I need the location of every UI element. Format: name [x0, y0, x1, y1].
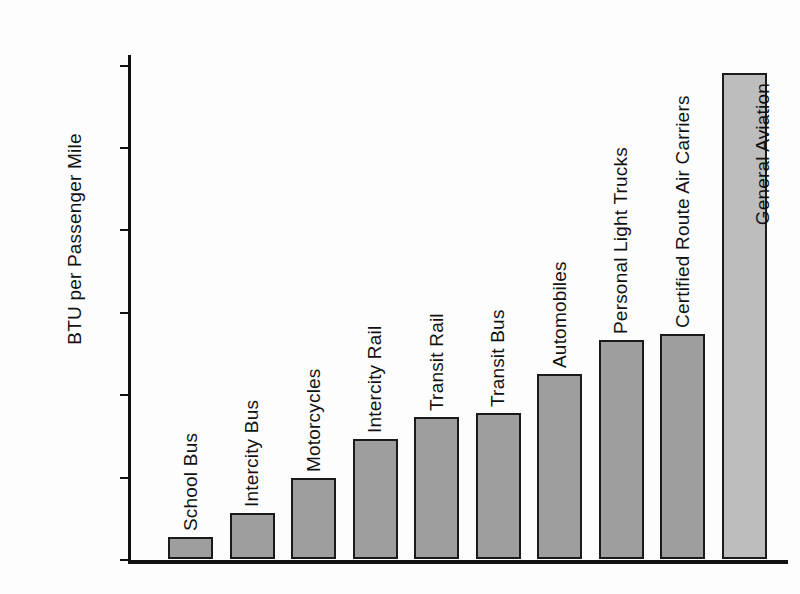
bar[interactable]: Intercity Bus [230, 513, 275, 559]
x-axis-line [128, 560, 788, 564]
bar[interactable]: Automobiles [537, 374, 582, 559]
y-axis-tick-mark [120, 147, 129, 149]
y-axis-tick-mark [120, 477, 129, 479]
y-axis-tick-mark [120, 312, 129, 314]
bar[interactable]: Personal Light Trucks [599, 340, 644, 559]
bar[interactable]: Transit Rail [414, 417, 459, 559]
bar-label: Certified Route Air Carriers [673, 95, 692, 328]
y-axis-line [128, 55, 131, 563]
y-axis-tick-mark [120, 394, 129, 396]
bar-label: Intercity Bus [242, 400, 261, 507]
bar-label: Transit Bus [488, 309, 507, 407]
y-axis-tick-mark [120, 229, 129, 231]
bar-label: School Bus [181, 433, 200, 531]
y-axis-tick-mark [120, 559, 129, 561]
bar-label: Automobiles [550, 261, 569, 368]
bar-label: Personal Light Trucks [611, 147, 630, 334]
bar[interactable]: Motorcycles [291, 478, 336, 559]
bar[interactable]: Certified Route Air Carriers [660, 334, 705, 559]
bar[interactable]: Intercity Rail [353, 439, 398, 559]
y-axis-tick-mark [120, 65, 129, 67]
bar[interactable]: School Bus [168, 537, 213, 559]
bar-label: General Aviation [753, 83, 772, 225]
bar-label: Intercity Rail [365, 326, 384, 433]
plot-area: 12,00010,00080006000400020000 School Bus… [128, 55, 788, 565]
bar-chart: BTU per Passenger Mile 12,00010,00080006… [0, 0, 800, 594]
bar[interactable]: Transit Bus [476, 413, 521, 559]
y-axis-title: BTU per Passenger Mile [64, 69, 86, 409]
bar[interactable]: General Aviation [722, 73, 767, 559]
bar-label: Transit Rail [427, 313, 446, 411]
bar-label: Motorcycles [304, 368, 323, 472]
